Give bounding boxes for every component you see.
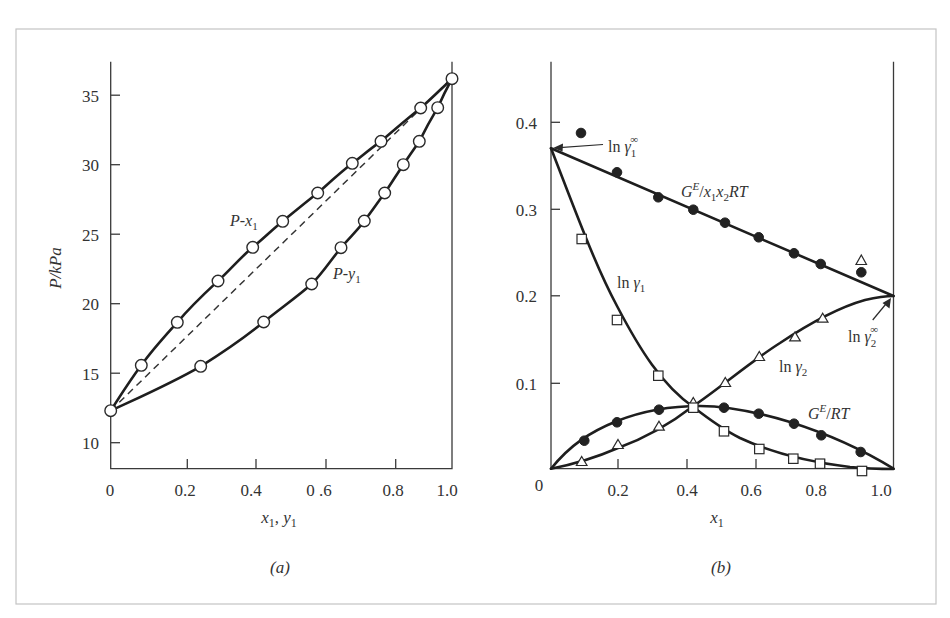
y-tick-label: 15 — [82, 365, 99, 384]
p-y1-label: P-y1 — [332, 265, 361, 285]
ge-rt-label: GE/RT — [808, 402, 851, 422]
panel-a-x-ticks — [187, 459, 395, 469]
panel-a-x-tick-labels: 0 0.2 0.4 0 .6 0.8 1.0 — [106, 481, 458, 500]
p-x1-curve — [111, 79, 452, 411]
ln-gamma2-inf-label: ln γ2∞ — [848, 323, 878, 349]
raoult-dashed-line — [111, 80, 450, 411]
p-y1-curve — [111, 79, 452, 411]
ln-gamma1-inf-label: ln γ1∞ — [608, 133, 638, 159]
panel-a-caption: (a) — [270, 558, 290, 577]
panel-b: 0.1 0.2 0.3 0.4 0 0.2 0.4 0.6 0.8 1.0 x1 — [516, 62, 894, 577]
panel-a-y-ticks — [111, 95, 120, 443]
x-tick-label: 0.8 — [382, 481, 403, 500]
ln-gamma2-label: ln γ2 — [779, 358, 807, 378]
ge-x1x2rt-label: GE/x1x2RT — [681, 180, 749, 203]
ln-gamma1-label: ln γ1 — [617, 274, 645, 294]
x-tick-label: 0 — [535, 476, 544, 495]
x-tick-label: 0.2 — [607, 481, 628, 500]
panel-b-y-tick-labels: 0.1 0.2 0.3 0.4 — [516, 114, 538, 394]
p-x1-label: P-x1 — [229, 212, 258, 232]
ln-gamma1-inf-arrow — [553, 144, 603, 152]
x-tick-label: 0.6 — [740, 481, 761, 500]
outlier-triangle-marker — [856, 255, 867, 265]
y-tick-label: 10 — [82, 434, 99, 453]
y-tick-label: 30 — [82, 156, 99, 175]
panel-a-x-axis-label: x1, y1 — [260, 508, 297, 530]
ln-gamma2-inf-arrow — [873, 298, 891, 320]
y-tick-label: 25 — [82, 226, 99, 245]
x-tick-label: 1.0 — [436, 481, 457, 500]
x-tick-label: 0.8 — [805, 481, 826, 500]
panel-a-y-axis-label: P/kPa — [46, 247, 65, 290]
p-y1-markers — [195, 102, 444, 372]
y-tick-label: 0.1 — [516, 375, 537, 394]
x-tick-label: 0 — [106, 481, 115, 500]
panel-a: 10 15 20 25 30 35 0 0.2 0.4 0 .6 0.8 1.0… — [46, 62, 458, 577]
panel-b-x-tick-labels: 0 0.2 0.4 0.6 0.8 1.0 — [535, 476, 892, 500]
panel-a-y-tick-labels: 10 15 20 25 30 35 — [82, 87, 99, 454]
y-tick-label: 0.3 — [516, 201, 537, 220]
x-tick-label: 0.4 — [240, 481, 262, 500]
y-tick-label: 0.4 — [516, 114, 538, 133]
figure: 10 15 20 25 30 35 0 0.2 0.4 0 .6 0.8 1.0… — [0, 0, 950, 618]
y-tick-label: 0.2 — [516, 287, 537, 306]
y-tick-label: 20 — [82, 295, 99, 314]
x-tick-label: 0.4 — [676, 481, 698, 500]
x-tick-label: 0 .6 — [306, 481, 332, 500]
figure-frame — [16, 29, 936, 604]
panel-b-x-axis-label: x1 — [709, 508, 724, 530]
x-tick-label: 1.0 — [870, 481, 891, 500]
y-tick-label: 35 — [82, 87, 99, 106]
panel-b-caption: (b) — [711, 558, 731, 577]
x-tick-label: 0.2 — [174, 481, 195, 500]
